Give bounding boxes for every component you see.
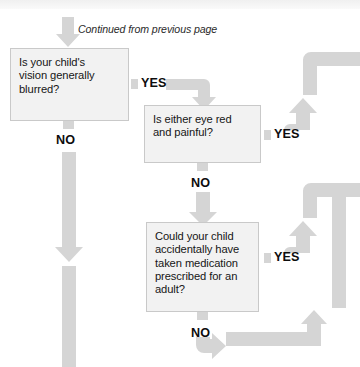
branch-label-yes-q3: YES: [274, 250, 300, 264]
question-adult-medication-line-2: accidentally have: [155, 243, 258, 256]
arrow-no-q2-stub: [197, 163, 208, 171]
arrow-right-column: [332, 196, 346, 308]
branch-label-yes-q1: YES: [141, 76, 167, 90]
arrow-no-q3-stub: [197, 312, 208, 320]
question-eye-red-painful-line-2: and painful?: [153, 126, 260, 139]
branch-label-no-q2: NO: [191, 176, 210, 190]
branch-label-no-q1: NO: [56, 133, 75, 147]
arrow-no-q1-continuation: [62, 266, 76, 367]
arrow-yes-q3-exit-right: [303, 183, 360, 218]
question-adult-medication: Could your child accidentally have taken…: [146, 222, 259, 312]
question-vision-blurred-line-1: Is your child's: [19, 56, 128, 69]
arrow-yes-q3-right-up: [284, 221, 317, 253]
question-eye-red-painful-line-1: Is either eye red: [153, 113, 260, 126]
arrow-yes-q2-right-up: [284, 98, 317, 130]
arrow-no-q1-stub: [63, 121, 74, 129]
question-adult-medication-line-4: prescribed for an: [155, 270, 258, 283]
question-vision-blurred-line-3: blurred?: [19, 83, 128, 96]
question-adult-medication-line-1: Could your child: [155, 230, 258, 243]
question-adult-medication-line-5: adult?: [155, 283, 258, 296]
arrow-yes-q2-exit-right: [303, 52, 360, 95]
branch-label-yes-q2: YES: [274, 127, 300, 141]
arrow-no-q2-down-to-q3: [189, 192, 217, 226]
question-eye-red-painful: Is either eye red and painful?: [144, 105, 261, 163]
arrow-yes-q2-stub: [264, 130, 271, 140]
arrow-no-q3-bottom-run: [226, 310, 327, 346]
branch-label-no-q3: NO: [191, 326, 210, 340]
question-adult-medication-line-3: taken medication: [155, 257, 258, 270]
continued-from-previous-page-note: Continued from previous page: [78, 23, 217, 35]
arrow-yes-q3-stub: [264, 253, 271, 263]
question-vision-blurred: Is your child's vision generally blurred…: [10, 48, 129, 121]
arrow-down-into-q1: [56, 17, 80, 47]
arrow-no-q1-down: [55, 152, 83, 262]
arrow-yes-q1-stub: [131, 79, 138, 89]
question-vision-blurred-line-2: vision generally: [19, 69, 128, 82]
